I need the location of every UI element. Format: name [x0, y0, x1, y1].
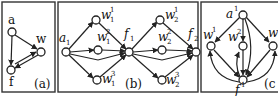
node-w22 [158, 46, 166, 54]
svg-text:a: a [226, 7, 233, 21]
label-a1: a 1 [59, 31, 70, 47]
label-w21: w 1 2 [165, 6, 178, 24]
label-a: a [8, 13, 15, 27]
svg-text:2: 2 [167, 38, 171, 46]
edge-f1-w2 [237, 52, 240, 77]
edge-w22-f2 [166, 50, 192, 51]
svg-text:2: 2 [167, 28, 171, 36]
node-f2 [192, 48, 200, 56]
edge-f1-w1 [210, 51, 239, 82]
label-w: w [36, 32, 47, 46]
svg-text:1: 1 [241, 81, 245, 89]
svg-text:2: 2 [175, 81, 179, 89]
svg-text:1: 1 [130, 35, 134, 43]
figure-canvas: a w f (a) a 1 [0, 0, 278, 96]
svg-text:1: 1 [66, 39, 70, 47]
label-w12: w 2 1 [97, 28, 110, 46]
svg-text:1: 1 [110, 6, 114, 14]
panel-b: a 1 w 1 1 w 2 1 w 3 1 f 1 w 1 2 w 2 [58, 2, 200, 92]
label-a1: a 1 [226, 5, 238, 21]
node-w13 [93, 76, 101, 84]
node-w2 [239, 42, 247, 50]
svg-text:2: 2 [174, 16, 178, 24]
node-a [8, 28, 16, 36]
caption-b: (b) [125, 77, 142, 91]
node-w12 [94, 46, 102, 54]
label-w11: w 1 1 [101, 6, 114, 24]
node-f [7, 66, 15, 74]
node-f1 [125, 48, 133, 56]
node-a1 [62, 48, 70, 56]
svg-text:1: 1 [234, 5, 238, 13]
label-w23: w 3 2 [166, 71, 179, 89]
edge-f1-w21 [132, 22, 157, 49]
node-a1 [239, 11, 247, 19]
panel-a: a w f (a) [2, 2, 55, 92]
svg-text:1: 1 [106, 38, 110, 46]
label-f1: f 1 [123, 27, 134, 43]
edge-a1-w11 [69, 22, 93, 49]
label-w3: w [268, 26, 278, 40]
node-w23 [158, 76, 166, 84]
label-w22: w 2 2 [158, 28, 171, 46]
svg-text:1: 1 [111, 80, 115, 88]
edge-w12-f1 [102, 50, 125, 51]
node-w11 [92, 16, 100, 24]
svg-text:1: 1 [212, 26, 216, 34]
node-w1 [207, 42, 215, 50]
svg-text:1: 1 [110, 16, 114, 24]
edge-w1-f1 [214, 50, 239, 77]
svg-text:2: 2 [106, 28, 110, 36]
edge-f1-w22 [133, 50, 158, 52]
svg-text:w: w [268, 26, 278, 40]
label-w1: w 1 [203, 26, 216, 42]
svg-text:2: 2 [237, 28, 241, 36]
edge-a-w [15, 35, 37, 49]
caption-a: (a) [34, 77, 51, 91]
label-f: f [9, 75, 15, 89]
label-f2: f 2 [187, 27, 198, 43]
node-w [37, 48, 45, 56]
edge-a-f [11, 36, 12, 65]
label-w13: w 3 1 [102, 70, 115, 88]
node-w3 [269, 42, 277, 50]
panel-c: a 1 w 1 w 2 w f 1 (c [201, 2, 278, 96]
caption-c: (c [264, 77, 276, 91]
svg-text:3: 3 [175, 71, 179, 79]
label-w2: w 2 [228, 28, 241, 44]
svg-text:1: 1 [174, 6, 178, 14]
edge-a1-w12 [70, 50, 94, 52]
svg-text:2: 2 [194, 35, 198, 43]
node-w21 [156, 16, 164, 24]
svg-text:3: 3 [111, 70, 115, 78]
